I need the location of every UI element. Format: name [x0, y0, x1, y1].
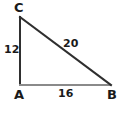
side-length-label-ab: 16 [58, 88, 73, 99]
side-length-label-ac: 12 [4, 44, 19, 55]
side-length-label-cb: 20 [63, 38, 78, 49]
triangle-figure: C A B 12 16 20 [0, 0, 125, 116]
vertex-label-b: B [107, 88, 117, 101]
vertex-label-a: A [14, 88, 24, 101]
side-cb-line [20, 17, 111, 85]
vertex-label-c: C [14, 1, 24, 14]
